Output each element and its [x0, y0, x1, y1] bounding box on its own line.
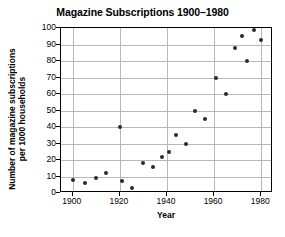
scatter-point	[240, 34, 244, 38]
y-tick-mark	[56, 176, 60, 177]
scatter-point	[193, 109, 197, 113]
gridline-horizontal	[61, 111, 271, 112]
scatter-point	[141, 161, 145, 165]
scatter-point	[184, 142, 188, 146]
y-axis-label: Number of magazine subscriptions per 100…	[7, 44, 27, 194]
scatter-point	[94, 176, 98, 180]
y-tick-mark	[56, 60, 60, 61]
scatter-point	[245, 59, 249, 63]
y-tick-mark	[56, 159, 60, 160]
y-tick-mark	[56, 93, 60, 94]
y-tick-label: 100	[32, 23, 56, 31]
scatter-point	[118, 125, 122, 129]
scatter-point	[104, 171, 108, 175]
gridline-vertical	[73, 28, 74, 191]
gridline-horizontal	[61, 45, 271, 46]
scatter-point	[167, 150, 171, 154]
y-tick-label: 30	[32, 139, 56, 147]
gridline-vertical	[120, 28, 121, 191]
y-tick-mark	[56, 126, 60, 127]
y-tick-mark	[56, 110, 60, 111]
y-tick-label: 80	[32, 56, 56, 64]
scatter-point	[252, 28, 256, 32]
gridline-horizontal	[61, 160, 271, 161]
y-tick-label: 90	[32, 40, 56, 48]
plot-area	[60, 27, 272, 192]
y-axis-tick-labels: 0102030405060708090100	[28, 27, 56, 192]
scatter-point	[203, 117, 207, 121]
gridline-vertical	[261, 28, 262, 191]
x-tick-label: 1900	[52, 196, 92, 206]
y-tick-label: 50	[32, 106, 56, 114]
y-tick-label: 40	[32, 122, 56, 130]
y-tick-label: 20	[32, 155, 56, 163]
scatter-point	[160, 155, 164, 159]
x-axis-tick-labels: 19001920194019601980	[60, 196, 272, 210]
scatter-point	[130, 186, 134, 190]
scatter-point	[71, 178, 75, 182]
x-tick-label: 1960	[193, 196, 233, 206]
y-tick-label: 0	[32, 188, 56, 196]
y-tick-mark	[56, 77, 60, 78]
scatter-point	[174, 133, 178, 137]
y-tick-label: 60	[32, 89, 56, 97]
chart-title: Magazine Subscriptions 1900–1980	[0, 6, 285, 18]
scatter-point	[224, 92, 228, 96]
gridline-vertical	[167, 28, 168, 191]
gridline-horizontal	[61, 78, 271, 79]
gridline-horizontal	[61, 144, 271, 145]
y-tick-label: 10	[32, 172, 56, 180]
y-tick-label: 70	[32, 73, 56, 81]
x-tick-label: 1920	[99, 196, 139, 206]
x-axis-label: Year	[60, 210, 272, 220]
gridline-horizontal	[61, 61, 271, 62]
scatter-point	[233, 46, 237, 50]
scatter-point	[151, 165, 155, 169]
y-tick-mark	[56, 192, 60, 193]
gridline-horizontal	[61, 177, 271, 178]
y-tick-mark	[56, 44, 60, 45]
x-tick-label: 1940	[146, 196, 186, 206]
scatter-point	[120, 179, 124, 183]
scatter-point	[214, 76, 218, 80]
gridline-horizontal	[61, 94, 271, 95]
x-tick-label: 1980	[240, 196, 280, 206]
scatter-point	[259, 38, 263, 42]
y-tick-mark	[56, 27, 60, 28]
gridline-horizontal	[61, 127, 271, 128]
scatter-point	[83, 181, 87, 185]
chart-figure: Magazine Subscriptions 1900–1980 Number …	[0, 0, 285, 237]
y-tick-mark	[56, 143, 60, 144]
gridline-vertical	[214, 28, 215, 191]
